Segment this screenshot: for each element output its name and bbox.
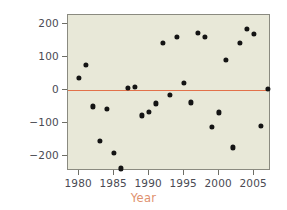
- x-axis-tick: [113, 170, 114, 175]
- data-point: [189, 100, 194, 105]
- data-point: [98, 139, 103, 144]
- x-axis-tick: [253, 170, 254, 175]
- data-point: [91, 104, 96, 109]
- data-point: [231, 145, 236, 150]
- y-axis-tick: [62, 122, 67, 123]
- data-point: [245, 26, 250, 31]
- x-axis-tick-label: 1980: [58, 177, 98, 189]
- data-point: [112, 150, 117, 155]
- y-axis-tick: [62, 155, 67, 156]
- y-axis-tick-label: 0: [13, 83, 59, 95]
- x-axis-tick: [218, 170, 219, 175]
- x-axis-tick-label: 2005: [233, 177, 273, 189]
- x-axis-tick: [78, 170, 79, 175]
- data-point: [161, 41, 166, 46]
- x-axis-tick: [183, 170, 184, 175]
- data-point: [259, 123, 264, 128]
- data-point: [147, 109, 152, 114]
- data-point: [133, 84, 138, 89]
- y-axis-tick-label: 100: [13, 50, 59, 62]
- data-point: [217, 110, 222, 115]
- data-point: [175, 34, 180, 39]
- x-axis-tick-label: 1985: [93, 177, 133, 189]
- data-point: [77, 75, 82, 80]
- y-axis-tick-label: −200: [13, 149, 59, 161]
- plot-area: [67, 14, 270, 170]
- data-point: [196, 30, 201, 35]
- data-point: [203, 34, 208, 39]
- plot-inner: [68, 15, 269, 169]
- x-axis-tick-label: 1990: [128, 177, 168, 189]
- y-axis-tick: [62, 89, 67, 90]
- data-point: [224, 57, 229, 62]
- data-point: [266, 86, 271, 91]
- zero-residual-line: [68, 90, 269, 92]
- data-point: [119, 166, 124, 171]
- data-point: [238, 41, 243, 46]
- y-axis-tick-label: −100: [13, 116, 59, 128]
- y-axis-tick: [62, 23, 67, 24]
- data-point: [84, 62, 89, 67]
- data-point: [168, 92, 173, 97]
- x-axis-tick-label: 1995: [163, 177, 203, 189]
- data-point: [154, 101, 159, 106]
- y-axis-tick: [62, 56, 67, 57]
- data-point: [140, 113, 145, 118]
- data-point: [210, 125, 215, 130]
- data-point: [252, 31, 257, 36]
- x-axis-tick-label: 2000: [198, 177, 238, 189]
- residual-plot-figure: 2001000−100−200198019851990199520002005 …: [0, 0, 287, 210]
- data-point: [105, 106, 110, 111]
- x-axis-title: Year: [0, 191, 287, 205]
- x-axis-tick: [148, 170, 149, 175]
- y-axis-tick-label: 200: [13, 17, 59, 29]
- data-point: [182, 80, 187, 85]
